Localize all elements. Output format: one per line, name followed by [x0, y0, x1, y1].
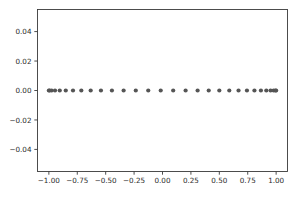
data-point — [274, 88, 278, 92]
x-tick-label: 1.00 — [268, 176, 284, 185]
data-point — [110, 88, 114, 92]
data-point — [146, 88, 150, 92]
data-point — [227, 88, 231, 92]
x-axis-tick-labels: −1.00−0.75−0.50−0.250.000.250.500.751.00 — [38, 176, 285, 185]
data-point — [134, 88, 138, 92]
data-point — [264, 88, 268, 92]
data-point — [58, 88, 62, 92]
data-point — [171, 88, 175, 92]
data-point — [99, 88, 103, 92]
figure-background — [0, 0, 299, 201]
matplotlib-figure: −1.00−0.75−0.50−0.250.000.250.500.751.00… — [0, 0, 299, 201]
x-tick-label: −1.00 — [38, 176, 60, 185]
data-point — [217, 88, 221, 92]
data-point — [89, 88, 93, 92]
x-tick-label: 0.75 — [240, 176, 256, 185]
x-tick-label: 0.00 — [154, 176, 170, 185]
y-tick-label: 0.04 — [15, 27, 31, 36]
data-point — [259, 88, 263, 92]
data-point — [64, 88, 68, 92]
x-tick-label: 0.50 — [211, 176, 227, 185]
data-point — [79, 88, 83, 92]
data-point — [184, 88, 188, 92]
data-point — [53, 88, 57, 92]
data-point — [122, 88, 126, 92]
x-tick-label: 0.25 — [183, 176, 199, 185]
data-point — [196, 88, 200, 92]
y-tick-label: 0.00 — [15, 86, 31, 95]
data-point — [252, 88, 256, 92]
x-tick-label: −0.50 — [95, 176, 117, 185]
data-point — [71, 88, 75, 92]
y-tick-label: 0.02 — [15, 57, 31, 66]
data-point — [207, 88, 211, 92]
scatter-plot-canvas: −1.00−0.75−0.50−0.250.000.250.500.751.00… — [0, 0, 299, 201]
data-point — [245, 88, 249, 92]
y-tick-label: −0.02 — [9, 116, 31, 125]
y-tick-label: −0.04 — [9, 145, 31, 154]
x-tick-label: −0.75 — [66, 176, 88, 185]
x-tick-label: −0.25 — [123, 176, 145, 185]
data-point — [236, 88, 240, 92]
data-point — [159, 88, 163, 92]
